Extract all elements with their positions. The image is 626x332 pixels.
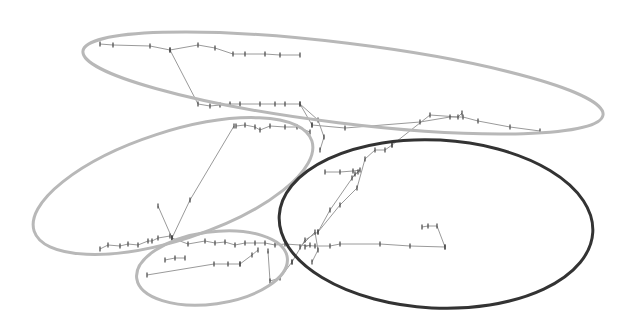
cluster-ellipse-right-dark <box>275 132 597 316</box>
trajectory-path <box>422 226 445 247</box>
trajectory-path <box>158 206 172 238</box>
trajectory-path <box>240 250 258 264</box>
trajectory-path <box>100 44 300 55</box>
cluster-ellipse-bottom-small <box>132 222 293 314</box>
trajectory-path <box>172 126 234 238</box>
trajectory-path <box>147 264 240 275</box>
trajectory-path <box>318 172 358 232</box>
cluster-ellipse-left <box>17 90 328 283</box>
cluster-diagram <box>0 0 626 332</box>
cluster-ellipses <box>17 11 607 316</box>
trajectory-path <box>170 50 312 125</box>
